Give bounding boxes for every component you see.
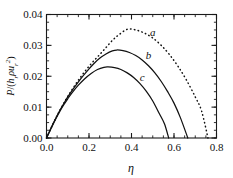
curve-a	[47, 29, 209, 138]
x-tick-label: 0.4	[125, 141, 139, 153]
y-axis-title: P/(hrρur2)	[4, 56, 20, 96]
curve-label-b: b	[146, 49, 152, 61]
curve-label-c: c	[140, 71, 145, 83]
y-tick-label: 0.02	[23, 70, 42, 82]
ylabel-numerator: P	[5, 90, 16, 97]
ylabel-close: )	[5, 56, 17, 59]
svg-text:P/(hrρur2): P/(hrρur2)	[4, 56, 20, 96]
y-tick-label: 0.03	[23, 39, 43, 51]
curve-label-a: a	[150, 26, 156, 38]
x-tick-labels: 0.00.20.40.60.8	[40, 141, 224, 153]
y-tick-label: 0.01	[23, 101, 42, 113]
y-tick-label: 0.04	[23, 8, 43, 20]
x-axis-title: η	[128, 161, 134, 175]
curve-b	[47, 50, 188, 138]
y-tick-labels: 0.000.010.020.030.04	[23, 8, 43, 144]
curve-labels: abc	[140, 26, 156, 83]
data-curves	[47, 29, 209, 138]
chart-figure: 0.00.20.40.60.8 0.000.010.020.030.04 abc…	[0, 0, 233, 178]
x-tick-label: 0.8	[210, 141, 224, 153]
x-tick-label: 0.2	[82, 141, 96, 153]
y-tick-label: 0.00	[23, 132, 43, 144]
curve-c	[47, 67, 169, 138]
plot-area: 0.00.20.40.60.8 0.000.010.020.030.04 abc…	[0, 0, 233, 178]
x-tick-label: 0.6	[167, 141, 181, 153]
ylabel-u-sub: r	[12, 63, 20, 66]
